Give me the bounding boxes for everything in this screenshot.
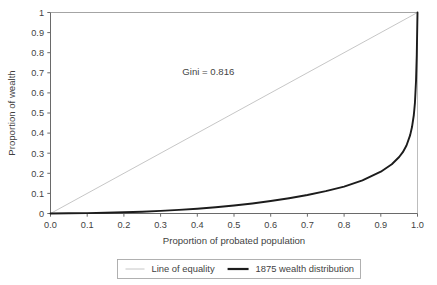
chart-canvas: 00.10.20.30.40.50.60.70.80.910.00.10.20.… bbox=[0, 0, 437, 285]
legend-label-2: 1875 wealth distribution bbox=[256, 263, 355, 274]
x-tick-label: 0.0 bbox=[44, 220, 57, 230]
y-tick-label: 0.9 bbox=[31, 28, 44, 38]
y-tick-label: 0.7 bbox=[31, 68, 44, 78]
lorenz-curve-figure: 00.10.20.30.40.50.60.70.80.910.00.10.20.… bbox=[0, 0, 437, 285]
y-tick-label: 0.8 bbox=[31, 48, 44, 58]
gini-annotation: Gini = 0.816 bbox=[182, 66, 234, 77]
series-line-of-equality bbox=[51, 13, 418, 214]
x-tick-label: 0.1 bbox=[81, 220, 94, 230]
x-tick-label: 0.3 bbox=[154, 220, 167, 230]
x-tick-label: 0.5 bbox=[228, 220, 241, 230]
y-axis-title: Proportion of wealth bbox=[6, 70, 17, 155]
y-tick-label: 0.1 bbox=[31, 189, 44, 199]
y-tick-label: 0.5 bbox=[31, 108, 44, 118]
x-tick-label: 0.2 bbox=[118, 220, 131, 230]
y-tick-label: 0.6 bbox=[31, 88, 44, 98]
x-tick-label: 1.0 bbox=[411, 220, 424, 230]
x-tick-label: 0.7 bbox=[301, 220, 314, 230]
y-tick-label: 0.2 bbox=[31, 169, 44, 179]
x-axis-title: Proportion of probated population bbox=[163, 235, 305, 246]
legend-label-1: Line of equality bbox=[152, 263, 215, 274]
y-tick-label: 0 bbox=[39, 209, 44, 219]
x-tick-label: 0.8 bbox=[338, 220, 351, 230]
x-tick-label: 0.6 bbox=[264, 220, 277, 230]
x-tick-label: 0.4 bbox=[191, 220, 204, 230]
y-tick-label: 1 bbox=[39, 8, 44, 18]
y-tick-label: 0.4 bbox=[31, 128, 44, 138]
y-tick-label: 0.3 bbox=[31, 149, 44, 159]
x-tick-label: 0.9 bbox=[374, 220, 387, 230]
